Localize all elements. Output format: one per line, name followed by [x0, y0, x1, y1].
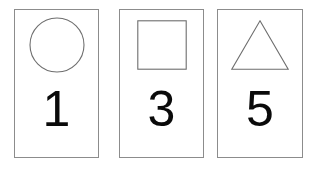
digit-area: 5	[218, 78, 302, 140]
card-digit: 5	[246, 84, 274, 134]
card-digit: 1	[43, 84, 71, 134]
digit-area: 1	[15, 78, 98, 140]
flashcard-square[interactable]: 3	[119, 9, 204, 158]
shape-area	[15, 10, 98, 80]
flashcard-triangle[interactable]: 5	[217, 9, 303, 158]
shape-area	[218, 10, 302, 80]
digit-area: 3	[120, 78, 203, 140]
square-outline-icon	[137, 20, 187, 70]
card-digit: 3	[148, 84, 176, 134]
flashcard-circle[interactable]: 1	[14, 9, 99, 158]
shape-area	[120, 10, 203, 80]
flashcard-set: 1 3 5	[0, 0, 316, 169]
circle-outline-icon	[29, 17, 85, 73]
triangle-outline-icon	[231, 20, 289, 70]
